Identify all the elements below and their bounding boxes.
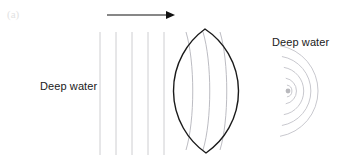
arrow-head-icon xyxy=(166,11,175,19)
wave-direction-arrow xyxy=(107,11,175,19)
shallow-water-lens-outline xyxy=(173,29,238,153)
lens-wavefront-2 xyxy=(203,32,210,150)
focal-point-marker xyxy=(286,89,291,94)
incoming-plane-wavefronts-group xyxy=(100,32,164,155)
lens-interior-wavefronts-group xyxy=(186,32,227,150)
deep-water-label-left: Deep water xyxy=(40,80,97,92)
lens-wavefront-1 xyxy=(186,32,193,150)
deep-water-label-right: Deep water xyxy=(272,36,329,48)
water-wave-refraction-figure: (a) Deep water Deep water xyxy=(0,0,345,163)
